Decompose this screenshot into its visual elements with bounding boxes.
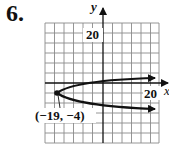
y-tick-label: 20 <box>86 27 99 42</box>
graph: 20 y 20 x (−19, −4) <box>0 0 169 154</box>
parabola-upper-branch <box>57 78 155 93</box>
vertex-point <box>54 90 60 96</box>
parabola-lower-branch <box>57 93 155 109</box>
y-axis-label: y <box>89 0 97 14</box>
vertex-label: (−19, −4) <box>35 108 84 123</box>
vertex-leader <box>58 95 60 108</box>
x-axis-label: x <box>163 83 169 98</box>
x-tick-label: 20 <box>144 86 157 101</box>
